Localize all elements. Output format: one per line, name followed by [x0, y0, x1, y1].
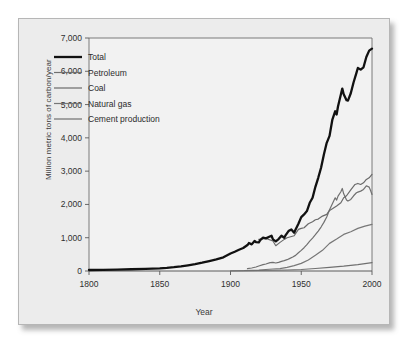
y-axis-title: Million metric tons of carbon/year	[44, 45, 53, 195]
legend-label-coal: Coal	[88, 83, 106, 93]
legend-label-total: Total	[88, 52, 106, 62]
x-tick-label: 1850	[150, 279, 169, 289]
figure-panel: 01,0002,0003,0004,0005,0006,0007,0001800…	[18, 18, 390, 325]
legend-label-cement-production: Cement production	[88, 114, 160, 124]
x-tick-label: 1800	[80, 279, 99, 289]
y-tick-label: 1,000	[61, 233, 83, 243]
y-tick-label: 0	[77, 266, 82, 276]
legend-label-petroleum: Petroleum	[88, 68, 127, 78]
x-tick-label: 2000	[363, 279, 382, 289]
y-tick-label: 3,000	[61, 166, 83, 176]
y-tick-label: 5,000	[61, 100, 83, 110]
carbon-emissions-line-chart: 01,0002,0003,0004,0005,0006,0007,0001800…	[19, 19, 389, 325]
legend-label-natural-gas: Natural gas	[88, 99, 131, 109]
y-tick-label: 7,000	[61, 33, 83, 43]
x-tick-label: 1950	[292, 279, 311, 289]
chart-figure: 01,0002,0003,0004,0005,0006,0007,0001800…	[19, 19, 389, 324]
screenshot-root: 01,0002,0003,0004,0005,0006,0007,0001800…	[0, 0, 412, 341]
x-axis-title: Year	[19, 307, 389, 317]
y-tick-label: 4,000	[61, 133, 83, 143]
x-tick-label: 1900	[221, 279, 240, 289]
y-tick-label: 2,000	[61, 199, 83, 209]
plot-background	[89, 38, 372, 271]
y-tick-label: 6,000	[61, 66, 83, 76]
